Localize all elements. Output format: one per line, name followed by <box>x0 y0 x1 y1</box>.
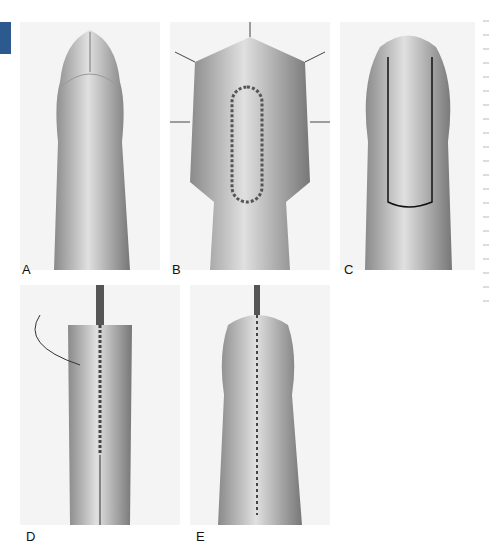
illustration-a <box>20 22 160 270</box>
panel-label-c: C <box>344 262 353 277</box>
panel-e <box>190 285 330 525</box>
chapter-tab <box>0 22 11 54</box>
margin-text-faded <box>483 20 489 310</box>
panel-b <box>170 22 330 270</box>
panel-a <box>20 22 160 270</box>
panel-label-a: A <box>22 262 31 277</box>
illustration-e <box>190 285 330 525</box>
panel-c <box>340 22 475 270</box>
illustration-b <box>170 22 330 270</box>
illustration-d <box>20 285 180 525</box>
illustration-c <box>340 22 475 270</box>
panel-label-d: D <box>26 529 35 544</box>
panel-label-b: B <box>172 262 181 277</box>
panel-label-e: E <box>196 529 205 544</box>
panel-d <box>20 285 180 525</box>
